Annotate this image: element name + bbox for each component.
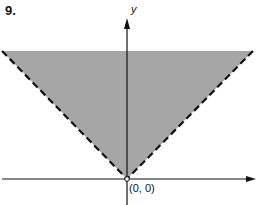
- y-axis-label: y: [131, 3, 137, 15]
- x-axis-arrow-icon: [246, 176, 256, 182]
- graph: [0, 0, 256, 205]
- origin-label: (0, 0): [129, 182, 155, 194]
- origin-point: [125, 177, 130, 182]
- y-axis-arrow-icon: [124, 18, 130, 29]
- problem-number: 9.: [5, 3, 16, 18]
